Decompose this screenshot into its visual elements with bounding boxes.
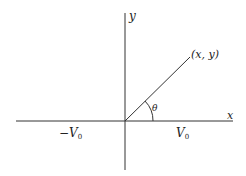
coordinate-diagram: [0, 0, 246, 176]
radial-ray: [125, 57, 190, 121]
positive-v0-label: V0: [176, 127, 189, 141]
positive-v0-subscript: 0: [185, 133, 189, 141]
negative-v0-text: −V: [59, 126, 78, 140]
negative-v0-label: −V0: [59, 127, 82, 141]
negative-v0-subscript: 0: [78, 133, 82, 141]
y-axis-label: y: [129, 10, 136, 22]
angle-label: θ: [152, 104, 157, 113]
positive-v0-text: V: [176, 126, 185, 140]
point-label: (x, y): [191, 49, 219, 60]
x-axis-label: x: [227, 110, 233, 121]
